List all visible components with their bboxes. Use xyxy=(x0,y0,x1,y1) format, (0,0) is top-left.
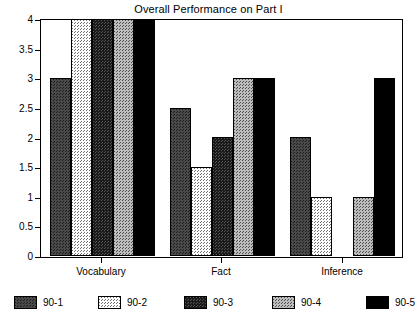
legend-label: 90-3 xyxy=(213,296,233,309)
legend-swatch-90-4 xyxy=(272,296,295,309)
bar-90-3-fact xyxy=(212,137,233,256)
x-axis-category-label: Vocabulary xyxy=(41,265,161,278)
legend-label: 90-1 xyxy=(43,296,63,309)
bar-90-5-inference xyxy=(374,78,395,256)
x-axis-category-label: Inference xyxy=(282,265,402,278)
legend-item-90-2[interactable]: 90-2 xyxy=(98,291,147,313)
legend-label: 90-2 xyxy=(127,296,147,309)
y-axis-tick-label: 1.5 xyxy=(19,161,33,174)
x-axis-category-label: Fact xyxy=(161,265,281,278)
legend-label: 90-5 xyxy=(395,296,415,309)
chart-figure: Student Profile Overall Performance on P… xyxy=(0,0,417,321)
bar-90-2-vocabulary xyxy=(71,19,92,256)
bar-90-2-fact xyxy=(191,167,212,256)
legend-swatch-90-2 xyxy=(98,296,121,309)
legend-label: 90-4 xyxy=(301,296,321,309)
bar-90-2-inference xyxy=(311,197,332,256)
y-axis-tick-label: 1 xyxy=(27,191,33,204)
chart-legend: 90-190-290-390-490-5 xyxy=(0,291,417,313)
legend-swatch-90-5 xyxy=(366,296,389,309)
plot-area xyxy=(40,19,403,258)
plot-inner xyxy=(42,21,401,256)
chart-title: Overall Performance on Part I xyxy=(0,3,417,16)
y-axis: 00.511.522.533.54 xyxy=(0,19,40,258)
bar-90-1-inference xyxy=(290,137,311,256)
legend-swatch-90-1 xyxy=(14,296,37,309)
bar-90-4-fact xyxy=(233,78,254,256)
legend-item-90-4[interactable]: 90-4 xyxy=(272,291,321,313)
legend-item-90-5[interactable]: 90-5 xyxy=(366,291,415,313)
legend-swatch-90-3 xyxy=(184,296,207,309)
bar-90-3-vocabulary xyxy=(92,19,113,256)
bar-90-5-fact xyxy=(254,78,275,256)
y-axis-tick-label: 3 xyxy=(27,72,33,85)
legend-item-90-1[interactable]: 90-1 xyxy=(14,291,63,313)
y-axis-tick-label: 2 xyxy=(27,132,33,145)
bar-90-4-vocabulary xyxy=(113,19,134,256)
y-axis-tick-label: 4 xyxy=(27,13,33,26)
y-axis-tick-label: 3.5 xyxy=(19,43,33,56)
x-axis-tick-mark xyxy=(342,258,343,263)
x-axis-tick-mark xyxy=(221,258,222,263)
y-axis-tick-label: 2.5 xyxy=(19,102,33,115)
legend-item-90-3[interactable]: 90-3 xyxy=(184,291,233,313)
y-axis-tick-label: 0 xyxy=(27,250,33,263)
bar-90-4-inference xyxy=(353,197,374,256)
bar-90-1-fact xyxy=(170,108,191,256)
y-axis-tick-label: 0.5 xyxy=(19,220,33,233)
bar-90-1-vocabulary xyxy=(50,78,71,256)
bar-90-5-vocabulary xyxy=(134,19,155,256)
x-axis-tick-mark xyxy=(101,258,102,263)
